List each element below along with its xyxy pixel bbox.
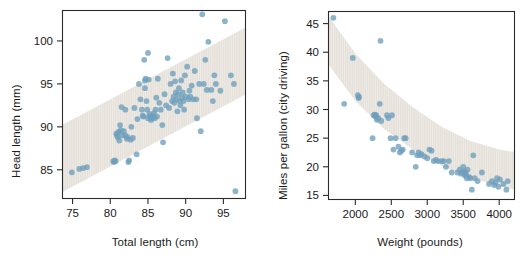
right-x-axis-title: Weight (pounds) — [320, 236, 520, 248]
svg-text:4000: 4000 — [486, 208, 512, 220]
scatter-panel-mpg: 2000250030003500400015202530354045 Weigh… — [265, 0, 531, 261]
svg-text:90: 90 — [179, 207, 192, 219]
svg-text:2500: 2500 — [378, 208, 404, 220]
svg-text:2000: 2000 — [343, 208, 369, 220]
svg-text:45: 45 — [306, 18, 319, 30]
svg-text:35: 35 — [306, 75, 319, 87]
svg-text:3000: 3000 — [414, 208, 440, 220]
svg-text:30: 30 — [306, 104, 319, 116]
svg-text:90: 90 — [40, 121, 53, 133]
svg-text:95: 95 — [217, 207, 230, 219]
figure-container: 7580859095859095100 Total length (cm) He… — [0, 0, 531, 261]
svg-text:3500: 3500 — [450, 208, 476, 220]
left-y-axis-title: Head length (mm) — [10, 84, 22, 178]
svg-text:25: 25 — [306, 132, 319, 144]
svg-text:40: 40 — [306, 46, 319, 58]
svg-text:85: 85 — [40, 164, 53, 176]
svg-text:75: 75 — [66, 207, 79, 219]
svg-text:85: 85 — [142, 207, 155, 219]
right-y-axis-title: Miles per gallon (city driving) — [277, 51, 289, 200]
svg-text:80: 80 — [104, 207, 117, 219]
svg-text:100: 100 — [34, 35, 53, 47]
left-plot-svg: 7580859095859095100 — [0, 0, 266, 261]
svg-text:95: 95 — [40, 78, 53, 90]
svg-text:15: 15 — [306, 189, 319, 201]
scatter-panel-head-length: 7580859095859095100 Total length (cm) He… — [0, 0, 266, 261]
left-x-axis-title: Total length (cm) — [55, 236, 255, 248]
right-plot-svg: 2000250030003500400015202530354045 — [265, 0, 531, 261]
svg-text:20: 20 — [306, 161, 319, 173]
